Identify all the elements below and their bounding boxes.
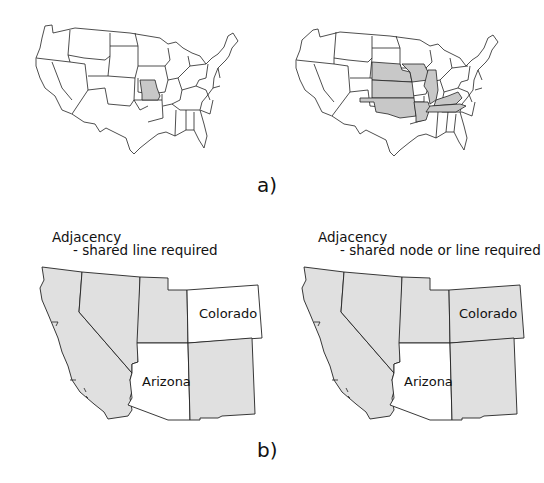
new-mexico-state-right	[450, 338, 517, 420]
colorado-label-right: Colorado	[459, 306, 517, 321]
southwest-map-right	[0, 0, 544, 483]
arizona-label-right: Arizona	[404, 374, 453, 389]
panel-b-label: b)	[257, 438, 278, 462]
utah-state-right	[399, 277, 450, 343]
